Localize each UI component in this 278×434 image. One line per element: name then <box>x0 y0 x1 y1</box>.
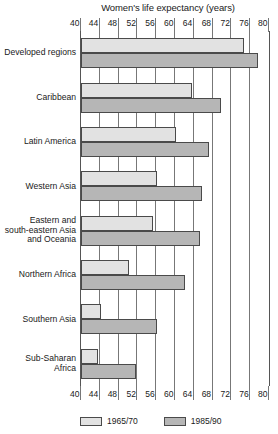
category-label-line: Southern Asia <box>4 315 76 325</box>
x-tick-label-80: 80 <box>258 388 269 401</box>
x-tick-label-56: 56 <box>145 388 156 401</box>
bar-group <box>81 209 269 253</box>
bar <box>81 260 129 275</box>
bar <box>81 216 153 231</box>
x-tick-mark-68 <box>212 18 213 32</box>
bar <box>81 38 244 53</box>
x-tick-mark-48 <box>118 18 119 32</box>
life-expectancy-bar-chart: Women's life expectancy (years) 40444852… <box>0 0 278 434</box>
x-axis-bottom: 4044485256606468727680 <box>0 388 278 401</box>
bar <box>81 186 202 201</box>
x-tick-mark-72 <box>230 18 231 32</box>
bar <box>81 142 209 157</box>
x-tick-mark-44 <box>99 18 100 32</box>
category-label-line: Latin America <box>4 137 76 147</box>
bar <box>81 349 98 364</box>
bar-group <box>81 75 269 119</box>
x-tick-label-48: 48 <box>108 388 119 401</box>
x-tick-mark-60 <box>174 18 175 32</box>
x-tick-label-64: 64 <box>183 388 194 401</box>
legend-item: 1985/90 <box>164 416 222 426</box>
x-tick-mark-76 <box>249 18 250 32</box>
category-label: Latin America <box>4 137 80 147</box>
category-labels: Developed regionsCaribbeanLatin AmericaW… <box>0 31 80 386</box>
bar <box>81 83 192 98</box>
category-label-line: Africa <box>4 364 76 374</box>
x-tick-label-52: 52 <box>126 388 137 401</box>
x-tick-mark-80 <box>268 18 269 32</box>
bar-group <box>81 120 269 164</box>
x-axis-top-tickmarks <box>80 18 269 32</box>
x-tick-mark-40 <box>80 18 81 32</box>
legend-label: 1985/90 <box>191 416 222 426</box>
category-label-line: Western Asia <box>4 182 76 192</box>
category-label: Eastern andsouth-eastern Asiaand Oceania <box>4 216 80 245</box>
category-label: Caribbean <box>4 93 80 103</box>
legend-label: 1965/70 <box>107 416 138 426</box>
category-label: Western Asia <box>4 182 80 192</box>
category-label: Sub-SaharanAfrica <box>4 354 80 373</box>
x-tick-mark-52 <box>136 18 137 32</box>
bar <box>81 98 221 113</box>
legend-swatch <box>80 417 102 426</box>
bar-group <box>81 297 269 341</box>
category-label-line: Northern Africa <box>4 270 76 280</box>
x-tick-mark-64 <box>193 18 194 32</box>
legend-item: 1965/70 <box>80 416 138 426</box>
legend-swatch <box>164 417 186 426</box>
bar <box>81 319 157 334</box>
category-label-line: Caribbean <box>4 93 76 103</box>
bar <box>81 275 185 290</box>
bar <box>81 53 258 68</box>
chart-legend: 1965/701985/90 <box>80 412 270 430</box>
chart-title: Women's life expectancy (years) <box>59 2 277 13</box>
x-tick-label-72: 72 <box>220 388 231 401</box>
bar <box>81 171 157 186</box>
x-tick-label-68: 68 <box>202 388 213 401</box>
bar-group <box>81 164 269 208</box>
x-tick-label-76: 76 <box>239 388 250 401</box>
category-label: Developed regions <box>4 48 80 58</box>
x-tick-label-40: 40 <box>70 388 81 401</box>
bar-group <box>81 342 269 386</box>
bar <box>81 231 200 246</box>
category-label-line: Developed regions <box>4 48 76 58</box>
category-label-line: and Oceania <box>4 235 76 245</box>
category-label: Southern Asia <box>4 315 80 325</box>
x-tick-label-44: 44 <box>89 388 100 401</box>
category-label: Northern Africa <box>4 270 80 280</box>
bar <box>81 364 136 379</box>
bar-group <box>81 31 269 75</box>
bar <box>81 304 101 319</box>
x-tick-label-60: 60 <box>164 388 175 401</box>
bar-group <box>81 253 269 297</box>
plot-area <box>80 31 270 386</box>
x-tick-mark-56 <box>155 18 156 32</box>
bar <box>81 127 176 142</box>
